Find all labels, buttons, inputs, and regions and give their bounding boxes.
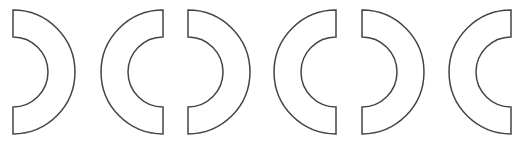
half-annulus-outline xyxy=(274,10,336,134)
half-annulus-outline xyxy=(362,10,424,134)
half-annulus-left-2 xyxy=(101,10,163,134)
half-annulus-outline xyxy=(101,10,163,134)
half-annulus-right-1 xyxy=(13,10,75,134)
half-annulus-diagram xyxy=(0,0,517,146)
half-annulus-outline xyxy=(449,10,511,134)
half-annulus-right-3 xyxy=(188,10,250,134)
half-annulus-left-4 xyxy=(274,10,336,134)
half-annulus-left-6 xyxy=(449,10,511,134)
half-annulus-right-5 xyxy=(362,10,424,134)
half-annulus-outline xyxy=(13,10,75,134)
half-annulus-outline xyxy=(188,10,250,134)
